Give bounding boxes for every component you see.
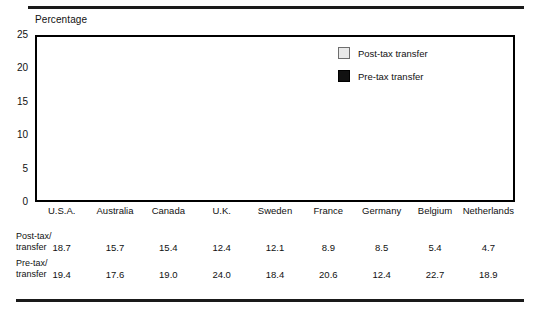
cell-pre-tax-belgium: 22.7 bbox=[426, 269, 445, 280]
cell-pre-tax-usa: 19.4 bbox=[52, 269, 71, 280]
bottom-rule bbox=[16, 299, 524, 302]
y-tick-label-5: 5 bbox=[22, 164, 28, 174]
y-tick-label-0: 0 bbox=[22, 197, 28, 207]
top-rule bbox=[28, 6, 524, 9]
x-label-usa: U.S.A. bbox=[48, 205, 75, 217]
y-axis-tick-labels: 0510152025 bbox=[0, 35, 33, 202]
y-tick-label-20: 20 bbox=[17, 63, 28, 73]
cell-pre-tax-canada: 19.0 bbox=[159, 269, 178, 280]
y-tick-label-10: 10 bbox=[17, 130, 28, 140]
legend-item-post: Post-tax transfer bbox=[338, 47, 428, 59]
x-label-canada: Canada bbox=[152, 205, 185, 217]
cell-post-tax-belgium: 5.4 bbox=[428, 242, 441, 253]
chart-page: Percentage 0510152025 Post-tax transferP… bbox=[0, 0, 537, 314]
y-axis-caption: Percentage bbox=[35, 14, 87, 25]
legend-swatch-pre bbox=[338, 70, 350, 82]
cell-post-tax-germany: 8.5 bbox=[375, 242, 388, 253]
plot-area: Post-tax transferPre-tax transfer bbox=[35, 35, 515, 202]
legend-label-post: Post-tax transfer bbox=[358, 48, 428, 59]
x-label-belgium: Belgium bbox=[418, 205, 452, 217]
legend: Post-tax transferPre-tax transfer bbox=[338, 47, 428, 82]
cell-post-tax-netherlands: 4.7 bbox=[482, 242, 495, 253]
x-label-australia: Australia bbox=[97, 205, 134, 217]
data-table: Post-tax/ transfer 18.715.715.412.412.18… bbox=[16, 235, 521, 289]
x-label-germany: Germany bbox=[362, 205, 401, 217]
table-row: Pre-tax/ transfer 19.417.619.024.018.420… bbox=[16, 262, 521, 289]
cell-post-tax-sweden: 12.1 bbox=[266, 242, 285, 253]
cell-post-tax-uk: 12.4 bbox=[212, 242, 231, 253]
cell-pre-tax-australia: 17.6 bbox=[106, 269, 125, 280]
x-label-sweden: Sweden bbox=[258, 205, 292, 217]
cell-post-tax-canada: 15.4 bbox=[159, 242, 178, 253]
cell-pre-tax-germany: 12.4 bbox=[372, 269, 391, 280]
cell-post-tax-france: 8.9 bbox=[322, 242, 335, 253]
row-label-pre-line1: Pre-tax/ bbox=[16, 258, 48, 268]
cell-post-tax-usa: 18.7 bbox=[52, 242, 71, 253]
x-label-france: France bbox=[314, 205, 344, 217]
x-label-uk: U.K. bbox=[212, 205, 230, 217]
plot-frame bbox=[35, 35, 515, 202]
cell-pre-tax-netherlands: 18.9 bbox=[479, 269, 498, 280]
cell-post-tax-australia: 15.7 bbox=[106, 242, 125, 253]
row-label-post-line2: transfer bbox=[16, 242, 47, 252]
x-label-netherlands: Netherlands bbox=[463, 205, 514, 217]
cell-pre-tax-france: 20.6 bbox=[319, 269, 338, 280]
y-tick-label-15: 15 bbox=[17, 97, 28, 107]
cell-pre-tax-sweden: 18.4 bbox=[266, 269, 285, 280]
legend-swatch-post bbox=[338, 47, 350, 59]
row-label-post-line1: Post-tax/ bbox=[16, 231, 52, 241]
y-tick-label-25: 25 bbox=[17, 30, 28, 40]
table-row: Post-tax/ transfer 18.715.715.412.412.18… bbox=[16, 235, 521, 262]
legend-item-pre: Pre-tax transfer bbox=[338, 70, 428, 82]
legend-label-pre: Pre-tax transfer bbox=[358, 71, 423, 82]
x-axis-category-labels: U.S.A.AustraliaCanadaU.K.SwedenFranceGer… bbox=[35, 205, 515, 219]
cell-pre-tax-uk: 24.0 bbox=[212, 269, 231, 280]
row-label-pre-line2: transfer bbox=[16, 269, 47, 279]
